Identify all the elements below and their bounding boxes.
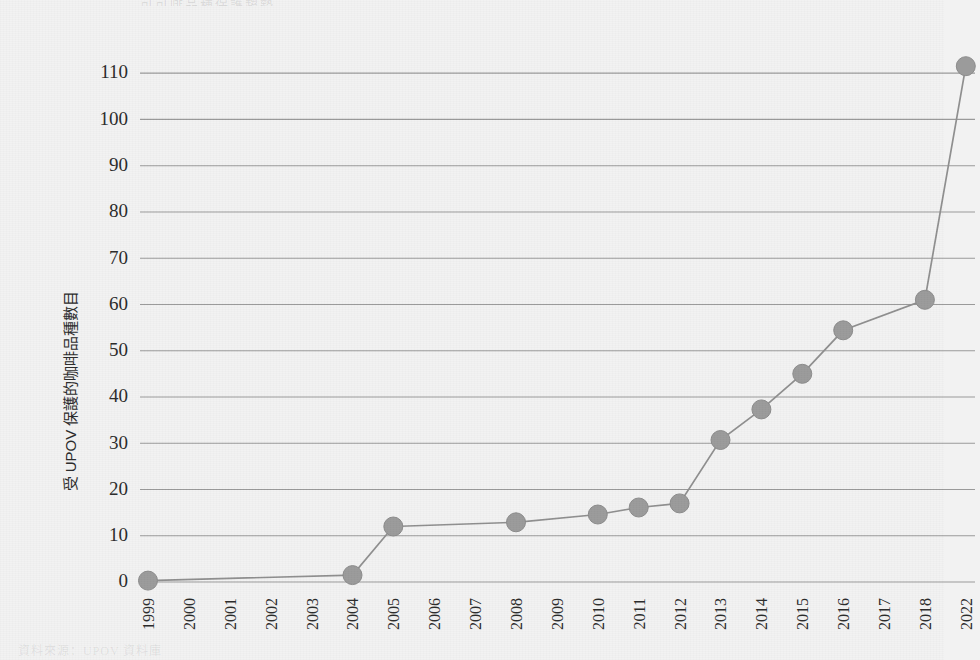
x-tick-label: 2016: [835, 598, 852, 630]
x-tick-label: 2000: [181, 598, 198, 630]
x-tick-label: 2014: [753, 598, 770, 630]
data-point-marker[interactable]: [670, 494, 689, 513]
data-point-marker[interactable]: [507, 513, 526, 532]
y-tick-label: 40: [109, 385, 128, 406]
y-tick-label: 70: [109, 247, 128, 268]
data-point-marker[interactable]: [384, 517, 403, 536]
x-tick-label: 2003: [304, 598, 321, 630]
data-point-marker[interactable]: [588, 505, 607, 524]
x-tick-label: 2012: [672, 598, 689, 630]
x-tick-label: 2009: [549, 598, 566, 630]
y-tick-label: 110: [100, 61, 128, 82]
ghost-title-text: 可可啡品種保護趨勢: [140, 0, 560, 6]
data-point-marker[interactable]: [834, 321, 853, 340]
line-chart-figure: 0102030405060708090100110 19992000200120…: [40, 16, 904, 644]
x-tick-label: 2022: [958, 598, 975, 630]
data-point-marker[interactable]: [915, 290, 934, 309]
y-axis-title-text: 受 UPOV 保護的咖啡品種數目: [62, 291, 79, 492]
x-tick-label: 2001: [222, 598, 239, 630]
y-tick-label: 50: [109, 339, 128, 360]
data-point-marker[interactable]: [139, 571, 158, 590]
y-tick-label: 80: [109, 200, 128, 221]
data-point-marker[interactable]: [711, 431, 730, 450]
x-tick-label: 1999: [140, 598, 157, 630]
data-series-group: [139, 57, 976, 590]
x-tick-label: 2008: [508, 598, 525, 630]
x-tick-label: 2011: [631, 598, 648, 629]
y-tick-label: 10: [109, 524, 128, 545]
x-tick-label: 2002: [263, 598, 280, 630]
data-point-marker[interactable]: [956, 57, 975, 76]
data-point-marker[interactable]: [343, 566, 362, 585]
x-tick-label: 2007: [467, 598, 484, 630]
data-point-marker[interactable]: [793, 364, 812, 383]
ghost-caption-text: 資料來源：UPOV 資料庫: [18, 641, 438, 657]
y-tick-label: 90: [109, 154, 128, 175]
x-tick-label: 2006: [426, 598, 443, 630]
x-tick-label: 2005: [385, 598, 402, 630]
y-axis-title: 受 UPOV 保護的咖啡品種數目: [62, 291, 79, 492]
y-tick-label: 100: [100, 108, 129, 129]
chart-canvas: 0102030405060708090100110 19992000200120…: [40, 16, 980, 660]
x-tick-label: 2017: [876, 598, 893, 630]
y-tick-label: 0: [119, 570, 129, 591]
x-tick-label: 2018: [917, 598, 934, 630]
y-axis-tick-labels: 0102030405060708090100110: [100, 61, 129, 591]
x-tick-label: 2015: [794, 598, 811, 630]
data-point-marker[interactable]: [629, 498, 648, 517]
y-tick-label: 60: [109, 293, 128, 314]
x-axis-tick-labels: 1999200020012002200320042005200620072008…: [140, 598, 975, 630]
y-tick-label: 30: [109, 432, 128, 453]
x-tick-label: 2013: [712, 598, 729, 630]
data-point-marker[interactable]: [752, 400, 771, 419]
x-tick-label: 2010: [590, 598, 607, 630]
x-tick-label: 2004: [344, 598, 361, 630]
y-tick-label: 20: [109, 478, 128, 499]
